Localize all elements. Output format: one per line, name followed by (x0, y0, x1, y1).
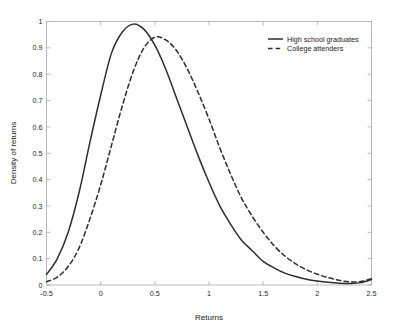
series-line-dashed (47, 37, 372, 282)
plot-area-border (47, 22, 372, 286)
y-tick-label: 0.4 (33, 175, 43, 184)
y-tick-label: 0.3 (33, 202, 43, 211)
data-series-group (47, 24, 372, 283)
x-tick-label: -0.5 (40, 289, 52, 298)
x-axis-tick-labels: -0.500.511.522.5 (40, 289, 376, 298)
y-tick-label: 0.1 (33, 254, 43, 263)
y-tick-label: 0.7 (33, 96, 43, 105)
series-line-solid (47, 24, 372, 283)
y-tick-label: 0.8 (33, 70, 43, 79)
y-tick-label: 0.9 (33, 43, 43, 52)
y-tick-label: 0.2 (33, 228, 43, 237)
y-tick-label: 0 (39, 281, 43, 290)
legend-label: High school graduates (287, 35, 359, 44)
y-axis-tick-labels: 00.10.20.30.40.50.60.70.80.91 (33, 17, 43, 290)
x-axis-title: Returns (195, 313, 223, 322)
x-tick-label: 0 (99, 289, 103, 298)
x-tick-label: 0.5 (150, 289, 160, 298)
x-tick-label: 1 (207, 289, 211, 298)
y-tick-label: 0.5 (33, 149, 43, 158)
chart-legend: High school graduatesCollege attenders (268, 35, 359, 54)
axis-frame (47, 22, 372, 286)
y-axis-ticks (47, 22, 372, 286)
density-plot: -0.500.511.522.5 00.10.20.30.40.50.60.70… (0, 0, 393, 329)
y-axis-title: Density of returns (9, 122, 18, 185)
x-axis-ticks (47, 22, 372, 286)
y-tick-label: 1 (39, 17, 43, 26)
y-tick-label: 0.6 (33, 123, 43, 132)
x-tick-label: 1.5 (258, 289, 268, 298)
x-tick-label: 2 (315, 289, 319, 298)
figure-container: -0.500.511.522.5 00.10.20.30.40.50.60.70… (0, 0, 393, 329)
x-tick-label: 2.5 (367, 289, 377, 298)
legend-label: College attenders (287, 44, 344, 53)
